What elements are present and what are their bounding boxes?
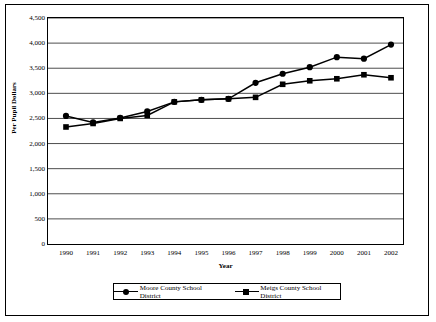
x-tick-label: 1996 [214, 249, 244, 258]
data-point [361, 72, 367, 78]
data-point [307, 64, 313, 70]
y-tick-label: 500 [17, 215, 45, 223]
y-tick-label: 0 [17, 240, 45, 248]
data-point [117, 116, 123, 122]
data-point [63, 113, 69, 119]
chart-container: 05001,0001,5002,0002,5003,0003,5004,0004… [0, 0, 436, 322]
data-point [361, 56, 367, 62]
data-point [172, 99, 178, 105]
y-tick-label: 4,500 [17, 14, 45, 22]
x-tick-label: 1992 [105, 249, 135, 258]
y-tick-label: 1,500 [17, 165, 45, 173]
data-point [226, 96, 232, 102]
x-axis-tick-labels: 1990199119921993199419951996199719981999… [47, 249, 404, 261]
data-point [388, 75, 394, 81]
x-tick-label: 1993 [132, 249, 162, 258]
x-tick-label: 1997 [241, 249, 271, 258]
data-point [334, 76, 340, 82]
y-tick-label: 2,500 [17, 114, 45, 122]
data-point [280, 71, 286, 77]
data-point [90, 121, 96, 127]
x-tick-label: 1994 [159, 249, 189, 258]
y-tick-label: 3,500 [17, 64, 45, 72]
x-tick-label: 2001 [349, 249, 379, 258]
data-point [280, 81, 286, 87]
data-point [63, 124, 69, 130]
data-point [388, 42, 394, 48]
x-tick-label: 2002 [376, 249, 406, 258]
series-line-0 [66, 45, 391, 123]
x-tick-label: 1991 [78, 249, 108, 258]
legend-label-moore: Moore County School District [140, 284, 221, 300]
y-tick-label: 2,000 [17, 140, 45, 148]
y-tick-label: 1,000 [17, 190, 45, 198]
data-point [307, 78, 313, 84]
legend-item-meigs: Meigs County School District [235, 284, 340, 300]
y-tick-label: 4,000 [17, 39, 45, 47]
x-tick-label: 1995 [186, 249, 216, 258]
x-tick-label: 1999 [295, 249, 325, 258]
plot-area [47, 17, 404, 245]
x-tick-label: 2000 [322, 249, 352, 258]
plot-svg [48, 18, 403, 244]
data-point [199, 97, 205, 103]
x-tick-label: 1998 [268, 249, 298, 258]
legend-item-moore: Moore County School District [114, 284, 221, 300]
data-point [252, 80, 258, 86]
y-tick-label: 3,000 [17, 89, 45, 97]
y-axis-title: Per Pupil Dollars [10, 73, 18, 143]
legend-marker-circle-icon [114, 287, 137, 296]
x-tick-label: 1990 [51, 249, 81, 258]
data-point [334, 54, 340, 60]
chart-legend: Moore County School District Meigs Count… [113, 283, 341, 300]
data-point [253, 95, 259, 101]
legend-label-meigs: Meigs County School District [260, 284, 340, 300]
data-point [144, 113, 150, 119]
legend-marker-square-icon [235, 287, 258, 296]
x-axis-title: Year [47, 262, 404, 270]
